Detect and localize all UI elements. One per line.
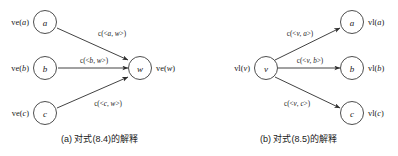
figure-container: a b c w ve(a) ve(b) ve(c) ve(w) c(<a, w>… xyxy=(0,0,398,156)
outer-label-ve-a: ve(a) xyxy=(11,18,29,27)
node-w-letter: w xyxy=(137,64,143,74)
node-v-letter: v xyxy=(264,64,268,74)
panel-b-caption: (b) 对式(8.5)的解释 xyxy=(199,132,398,145)
edge-label-v-a: c(<v, a>) xyxy=(287,30,314,38)
edge-label-v-c: c(<v, c>) xyxy=(284,100,311,108)
edge-label-c-w: c(<c, w>) xyxy=(94,100,122,108)
outer-label-vl-c: vl(c) xyxy=(368,109,384,118)
edge-label-v-b: c(<v, b>) xyxy=(297,57,324,65)
outer-label-ve-w: ve(w) xyxy=(156,64,175,73)
outer-label-ve-b: ve(b) xyxy=(11,64,29,73)
outer-label-vl-b: vl(b) xyxy=(368,64,385,73)
edge-label-b-w: c(<b, w>) xyxy=(80,57,109,65)
node-c-letter: c xyxy=(43,109,47,119)
panel-b-diverging-diagram: v a b c vl(v) vl(a) vl(b) vl(c) c(<v, a>… xyxy=(199,0,398,156)
node-a-letter: a xyxy=(43,18,48,28)
node-b-letter: b xyxy=(43,64,48,74)
outer-label-vl-v: vl(v) xyxy=(234,64,250,73)
node-a-letter: a xyxy=(350,18,355,28)
edge-label-a-w: c(<a, w>) xyxy=(98,30,127,38)
outer-label-vl-a: vl(a) xyxy=(368,18,385,27)
node-c-letter: c xyxy=(350,109,354,119)
node-b-letter: b xyxy=(350,64,355,74)
outer-label-ve-c: ve(c) xyxy=(12,109,29,118)
panel-a-converging-diagram: a b c w ve(a) ve(b) ve(c) ve(w) c(<a, w>… xyxy=(0,0,199,156)
panel-a-caption: (a) 对式(8.4)的解释 xyxy=(0,132,199,145)
